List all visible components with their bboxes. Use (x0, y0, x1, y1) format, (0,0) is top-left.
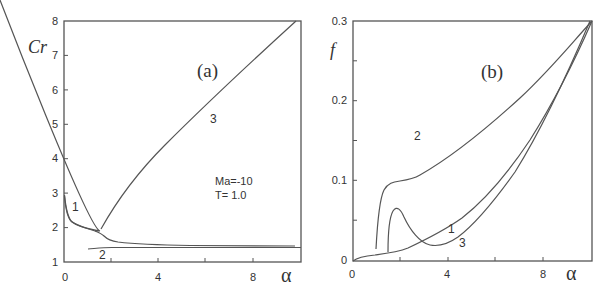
curve-label-3: 3 (210, 112, 217, 126)
curve-label-3: 3 (459, 236, 466, 250)
y-tick-label: 6 (52, 84, 58, 96)
annotation-t: T= 1.0 (215, 189, 247, 201)
curve-1 (65, 196, 296, 246)
curve-1 (0, 0, 100, 231)
y-tick-label: 2 (52, 221, 58, 233)
curve-label-2: 2 (99, 248, 106, 262)
panel-b-x-tick-labels: 0 4 8 (349, 268, 546, 280)
y-tick-label: 0.2 (332, 94, 347, 106)
y-tick-label: 4 (52, 152, 58, 164)
x-tick-label: 0 (349, 268, 355, 280)
x-axis-title: α (566, 262, 577, 284)
y-tick-label: 1 (52, 256, 58, 268)
annotation-ma: Ma=-10 (215, 175, 253, 187)
curve-2 (376, 21, 592, 249)
x-tick-label: 0 (62, 271, 68, 283)
x-tick-label: 4 (155, 271, 161, 283)
y-axis-title: f (330, 40, 338, 60)
curve-label-1: 1 (72, 200, 79, 214)
panel-a-x-tick-labels: 0 4 8 (62, 271, 256, 283)
panel-label: (b) (481, 61, 503, 83)
y-tick-label: 0.1 (332, 174, 347, 186)
curve-2 (88, 248, 301, 250)
y-tick-label: 5 (52, 118, 58, 130)
curve-label-2: 2 (414, 129, 421, 143)
y-tick-label: 3 (52, 187, 58, 199)
panel-label: (a) (197, 60, 218, 82)
x-tick-label: 8 (250, 271, 256, 283)
panel-a: 8 7 6 5 4 3 2 1 0 4 8 Cr α (a) Ma=-10 T=… (0, 0, 301, 286)
curve-label-1: 1 (448, 222, 455, 236)
y-tick-label: 0 (341, 254, 347, 266)
panel-b: 0.3 0.2 0.1 0 0 4 8 f α (b) 2 1 3 (330, 15, 592, 284)
y-axis-title: Cr (28, 37, 48, 57)
panel-a-frame (64, 21, 301, 262)
curve-3 (101, 21, 296, 229)
x-tick-label: 8 (540, 268, 546, 280)
figure: 8 7 6 5 4 3 2 1 0 4 8 Cr α (a) Ma=-10 T=… (0, 0, 615, 294)
panel-a-curves: 1 2 3 (65, 21, 302, 262)
y-tick-label: 8 (52, 15, 58, 27)
y-tick-label: 0.3 (332, 15, 347, 27)
x-tick-label: 4 (444, 268, 450, 280)
y-tick-label: 7 (52, 49, 58, 61)
x-axis-title: α (281, 264, 292, 286)
